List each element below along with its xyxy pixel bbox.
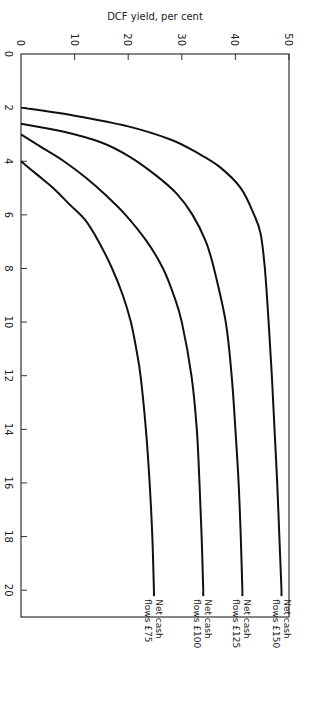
x-tick-label: 6 <box>3 212 14 218</box>
y-tick-label: 50 <box>283 33 294 46</box>
x-tick-label: 12 <box>3 369 14 382</box>
x-tick-label: 0 <box>3 51 14 57</box>
chart-container: 0246810121416182001020304050 Net cashflo… <box>0 0 334 707</box>
series-label: flows £100 <box>192 599 202 648</box>
y-axis-title: DCF yield, per cent <box>107 11 203 22</box>
series-label: flows £75 <box>143 599 153 642</box>
series-label: Net cash <box>242 599 252 639</box>
series-label: Net cash <box>203 599 213 639</box>
plot-frame <box>21 54 289 617</box>
dcf-yield-chart: 0246810121416182001020304050 Net cashflo… <box>0 0 334 707</box>
y-tick-label: 30 <box>176 33 187 46</box>
x-tick-label: 20 <box>3 584 14 597</box>
y-tick-label: 20 <box>122 33 133 46</box>
series-line-3 <box>21 134 203 590</box>
x-tick-label: 16 <box>3 477 14 490</box>
y-tick-label: 0 <box>15 40 26 46</box>
series-label: Net cash <box>281 599 291 639</box>
x-tick-label: 14 <box>3 423 14 436</box>
curves <box>21 108 281 591</box>
x-tick-label: 8 <box>3 265 14 271</box>
axes: 0246810121416182001020304050 <box>3 33 294 617</box>
x-tick-label: 4 <box>3 158 14 164</box>
series-label: Net cash <box>154 599 164 639</box>
series-label: flows £150 <box>270 599 280 648</box>
series-label: flows £125 <box>231 599 241 648</box>
y-tick-label: 10 <box>69 33 80 46</box>
x-tick-label: 10 <box>3 316 14 329</box>
curve-labels: Net cashflows £150Net cashflows £125Net … <box>143 590 292 648</box>
series-line-2 <box>21 124 242 590</box>
x-tick-label: 2 <box>3 104 14 110</box>
y-tick-label: 40 <box>229 33 240 46</box>
x-tick-label: 18 <box>3 530 14 543</box>
